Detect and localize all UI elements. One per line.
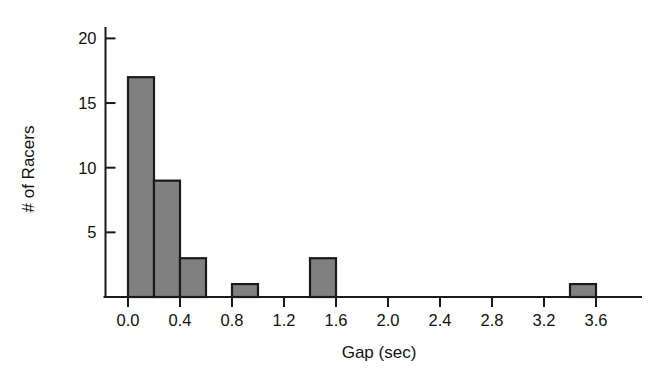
histogram-figure: 5101520 0.00.40.81.21.62.02.42.83.23.6 G… xyxy=(0,0,667,377)
x-tick-label: 1.6 xyxy=(325,311,348,329)
histogram-plot-area: 5101520 0.00.40.81.21.62.02.42.83.23.6 G… xyxy=(0,0,667,377)
histogram-bar xyxy=(154,181,180,297)
x-tick-label: 0.0 xyxy=(117,311,140,329)
y-tick-label: 5 xyxy=(87,223,96,241)
histogram-bar xyxy=(570,284,596,297)
x-tick-label: 0.8 xyxy=(221,311,244,329)
x-axis-title: Gap (sec) xyxy=(342,343,417,362)
y-axis-ticks: 5101520 xyxy=(78,29,115,241)
histogram-bar xyxy=(310,258,336,297)
x-tick-label: 2.0 xyxy=(377,311,400,329)
axes-group xyxy=(105,28,642,297)
x-axis-ticks: 0.00.40.81.21.62.02.42.83.23.6 xyxy=(117,297,608,329)
y-tick-label: 15 xyxy=(78,94,96,112)
x-tick-label: 1.2 xyxy=(273,311,296,329)
y-tick-label: 10 xyxy=(78,159,96,177)
y-tick-label: 20 xyxy=(78,29,96,47)
x-tick-label: 3.6 xyxy=(585,311,608,329)
x-tick-label: 2.4 xyxy=(429,311,452,329)
bars-group xyxy=(128,77,596,297)
histogram-bar xyxy=(180,258,206,297)
x-tick-label: 0.4 xyxy=(169,311,192,329)
y-axis-title: # of Racers xyxy=(19,126,38,213)
x-tick-label: 2.8 xyxy=(481,311,504,329)
histogram-bar xyxy=(232,284,258,297)
x-tick-label: 3.2 xyxy=(533,311,556,329)
histogram-bar xyxy=(128,77,154,297)
